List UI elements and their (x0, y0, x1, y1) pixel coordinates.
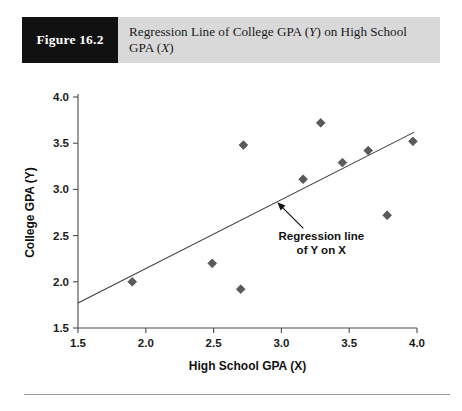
scatter-chart: 1.52.02.53.03.54.0 1.52.02.53.03.54.0 Re… (0, 63, 462, 383)
footer-divider (24, 394, 450, 395)
figure-caption-header: Figure 16.2 Regression Line of College G… (22, 17, 440, 63)
figure-title-text: Regression Line of College GPA (Y) on Hi… (129, 24, 432, 56)
y-tick-label: 4.0 (53, 91, 69, 103)
y-axis-title: College GPA (Y) (23, 167, 37, 258)
x-tick-label: 4.0 (409, 337, 425, 349)
x-tick-label: 3.0 (273, 337, 289, 349)
data-point-marker (299, 175, 308, 184)
data-point-marker (239, 141, 248, 150)
x-axis-ticks: 1.52.02.53.03.54.0 (70, 328, 425, 349)
annotation-line-1: Regression line (279, 230, 365, 242)
data-point-marker (208, 259, 217, 268)
figure-title-segment-3: ) (169, 40, 173, 55)
x-tick-label: 2.0 (138, 337, 154, 349)
figure-number-badge: Figure 16.2 (22, 17, 118, 63)
y-tick-label: 3.0 (53, 183, 69, 195)
annotation-line-2: of Y on X (297, 244, 347, 256)
x-tick-label: 2.5 (206, 337, 223, 349)
data-point-marker (338, 158, 347, 167)
data-points-group (128, 118, 417, 293)
annotation-arrow-shaft (281, 206, 304, 229)
data-point-marker (409, 137, 418, 146)
figure-title-segment-1: Regression Line of College GPA ( (129, 24, 309, 39)
chart-svg: 1.52.02.53.03.54.0 1.52.02.53.03.54.0 Re… (0, 63, 462, 383)
data-point-marker (128, 277, 137, 286)
regression-line (78, 132, 414, 303)
regression-annotation: Regression line of Y on X (277, 202, 364, 256)
y-tick-label: 3.5 (53, 137, 70, 149)
figure-title-italic-x: X (161, 40, 169, 55)
x-axis-title: High School GPA (X) (189, 359, 306, 373)
regression-line-group (78, 132, 414, 303)
y-tick-label: 2.5 (53, 230, 70, 242)
y-tick-label: 1.5 (53, 322, 70, 334)
x-tick-label: 3.5 (341, 337, 358, 349)
data-point-marker (383, 211, 392, 220)
y-axis-ticks: 1.52.02.53.03.54.0 (53, 91, 78, 334)
chart-axes (78, 94, 417, 328)
x-tick-label: 1.5 (70, 337, 87, 349)
data-point-marker (236, 285, 245, 294)
figure-title: Regression Line of College GPA (Y) on Hi… (118, 17, 440, 63)
y-tick-label: 2.0 (53, 276, 69, 288)
data-point-marker (316, 118, 325, 127)
